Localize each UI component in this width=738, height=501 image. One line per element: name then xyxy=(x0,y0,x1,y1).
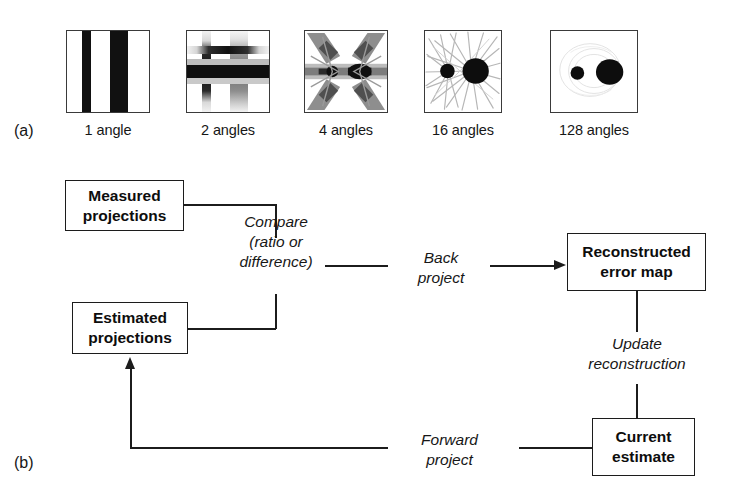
edge-label-back-project-line2: project xyxy=(396,268,486,288)
arrow-right-icon-back-project xyxy=(554,260,566,270)
edge-label-update-line1: Update xyxy=(557,334,717,354)
connector-error-map-down-upper xyxy=(636,291,638,332)
figure-tag-b: (b) xyxy=(14,454,34,472)
connector-measured-to-junction xyxy=(184,204,276,206)
reconstruction-4-angles-image xyxy=(304,30,388,113)
edge-label-forward-project-line1: Forward xyxy=(397,430,502,450)
part-b-flow-diagram: (b) Measured projections Estimated proje… xyxy=(0,160,738,501)
node-current-estimate-line1: Current xyxy=(616,427,672,447)
connector-compare-to-back-project xyxy=(325,265,388,267)
node-estimated-projections-line2: projections xyxy=(88,328,172,348)
connector-forward-return-horizontal xyxy=(130,447,388,449)
connector-estimated-up xyxy=(275,294,277,329)
node-reconstructed-error-map-line2: error map xyxy=(600,262,672,282)
figure-tag-a: (a) xyxy=(14,122,34,140)
connector-error-map-down-lower xyxy=(636,384,638,418)
node-measured-projections[interactable]: Measured projections xyxy=(65,180,184,231)
node-current-estimate-line2: estimate xyxy=(612,447,675,467)
node-measured-projections-line1: Measured xyxy=(88,186,160,206)
reconstruction-128-angles-image xyxy=(550,30,638,113)
node-estimated-projections[interactable]: Estimated projections xyxy=(72,302,188,354)
edge-label-update-reconstruction: Update reconstruction xyxy=(557,334,717,374)
part-a-panel-row: (a) 1 angle 2 angles xyxy=(0,0,738,160)
connector-estimated-to-junction xyxy=(188,328,276,330)
edge-label-back-project: Back project xyxy=(396,248,486,288)
connector-forward-return-vertical xyxy=(130,369,132,448)
connector-current-estimate-to-forward xyxy=(519,447,593,449)
panel-label-128-angles: 128 angles xyxy=(524,122,664,138)
panel-label-16-angles: 16 angles xyxy=(393,122,533,138)
edge-label-compare-line1: Compare xyxy=(196,212,356,232)
node-estimated-projections-line1: Estimated xyxy=(93,308,167,328)
edge-label-compare-line2: (ratio or xyxy=(196,232,356,252)
arrow-up-icon-forward-project xyxy=(125,357,135,369)
edge-label-compare: Compare (ratio or difference) xyxy=(196,212,356,272)
figure-root: (a) 1 angle 2 angles xyxy=(0,0,738,501)
edge-label-forward-project-line2: project xyxy=(397,450,502,470)
edge-label-back-project-line1: Back xyxy=(396,248,486,268)
edge-label-compare-line3: difference) xyxy=(196,252,356,272)
node-measured-projections-line2: projections xyxy=(83,206,167,226)
reconstruction-16-angles-image xyxy=(424,30,502,113)
panel-label-1-angle: 1 angle xyxy=(38,122,178,138)
edge-label-update-line2: reconstruction xyxy=(557,354,717,374)
reconstruction-2-angles-image xyxy=(186,30,270,113)
node-reconstructed-error-map[interactable]: Reconstructed error map xyxy=(567,233,706,291)
node-current-estimate[interactable]: Current estimate xyxy=(592,418,695,476)
node-reconstructed-error-map-line1: Reconstructed xyxy=(582,242,691,262)
reconstruction-1-angle-image xyxy=(66,30,150,113)
connector-back-project-to-error-map xyxy=(490,265,556,267)
edge-label-forward-project: Forward project xyxy=(397,430,502,470)
